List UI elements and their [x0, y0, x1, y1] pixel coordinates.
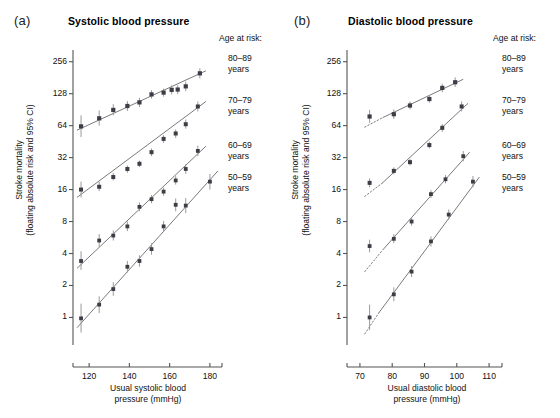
data-point — [111, 287, 115, 291]
data-point — [392, 169, 396, 173]
data-point — [392, 112, 396, 116]
data-point — [429, 240, 433, 244]
data-point — [97, 185, 101, 189]
data-point — [111, 108, 115, 112]
data-point — [149, 92, 153, 96]
data-point — [137, 100, 141, 104]
data-point — [162, 224, 166, 228]
panel-diastolic: (b) Diastolic blood pressure Stroke mort… — [280, 0, 560, 418]
data-point — [174, 203, 178, 207]
data-point — [79, 124, 83, 128]
x-tick-label-120: 120 — [69, 371, 109, 381]
data-point — [471, 180, 475, 184]
data-point — [162, 137, 166, 141]
x-tick-label-180: 180 — [190, 371, 230, 381]
data-point — [111, 175, 115, 179]
data-point — [138, 259, 142, 263]
data-point — [184, 84, 188, 88]
y-tick-label-128: 128 — [309, 88, 341, 98]
y-tick-label-256: 256 — [35, 56, 67, 66]
figure-root: (a) Systolic blood pressure Stroke morta… — [0, 0, 560, 418]
data-point — [79, 316, 83, 320]
y-tick-label-8: 8 — [309, 216, 341, 226]
data-point — [427, 143, 431, 147]
data-point — [196, 104, 200, 108]
data-point — [198, 71, 202, 75]
data-point — [97, 116, 101, 120]
y-tick-label-256: 256 — [309, 56, 341, 66]
data-point — [447, 213, 451, 217]
y-tick-label-1: 1 — [309, 311, 341, 321]
panel-systolic: (a) Systolic blood pressure Stroke morta… — [0, 0, 280, 418]
data-point — [150, 197, 154, 201]
data-point — [408, 160, 412, 164]
y-tick-label-32: 32 — [35, 152, 67, 162]
x-tick-label-160: 160 — [150, 371, 190, 381]
y-tick-label-1: 1 — [35, 311, 67, 321]
data-point — [137, 162, 141, 166]
data-point — [125, 265, 129, 269]
data-point — [125, 167, 129, 171]
y-tick-label-8: 8 — [35, 216, 67, 226]
data-point — [174, 179, 178, 183]
data-point — [125, 224, 129, 228]
data-point — [174, 131, 178, 135]
data-point — [368, 181, 372, 185]
y-tick-label-64: 64 — [309, 120, 341, 130]
data-point — [208, 180, 212, 184]
data-point — [150, 247, 154, 251]
data-point — [97, 303, 101, 307]
data-point — [453, 80, 457, 84]
y-tick-label-4: 4 — [35, 248, 67, 258]
data-point — [368, 244, 372, 248]
data-point — [368, 316, 372, 320]
data-point — [79, 188, 83, 192]
data-point — [138, 205, 142, 209]
data-point — [410, 270, 414, 274]
data-point — [440, 126, 444, 130]
data-point — [125, 104, 129, 108]
y-tick-label-16: 16 — [35, 184, 67, 194]
data-point — [392, 237, 396, 241]
data-point — [184, 122, 188, 126]
data-point — [410, 220, 414, 224]
data-point — [184, 167, 188, 171]
data-point — [444, 177, 448, 181]
data-point — [461, 154, 465, 158]
data-point — [184, 204, 188, 208]
data-point — [427, 97, 431, 101]
y-tick-label-2: 2 — [309, 279, 341, 289]
data-point — [150, 150, 154, 154]
x-tick-label-110: 110 — [469, 371, 509, 381]
data-point — [392, 292, 396, 296]
data-point — [111, 234, 115, 238]
data-point — [162, 190, 166, 194]
data-point — [460, 104, 464, 108]
data-point — [162, 91, 166, 95]
y-tick-label-64: 64 — [35, 120, 67, 130]
y-tick-label-32: 32 — [309, 152, 341, 162]
data-point — [97, 239, 101, 243]
x-tick-label-140: 140 — [109, 371, 149, 381]
data-point — [440, 86, 444, 90]
data-point — [79, 259, 83, 263]
y-tick-label-4: 4 — [309, 248, 341, 258]
data-point — [170, 88, 174, 92]
y-tick-label-128: 128 — [35, 88, 67, 98]
data-point — [429, 192, 433, 196]
data-point — [176, 87, 180, 91]
y-tick-label-2: 2 — [35, 279, 67, 289]
data-point — [368, 114, 372, 118]
y-tick-label-16: 16 — [309, 184, 341, 194]
data-point — [196, 149, 200, 153]
data-point — [408, 103, 412, 107]
